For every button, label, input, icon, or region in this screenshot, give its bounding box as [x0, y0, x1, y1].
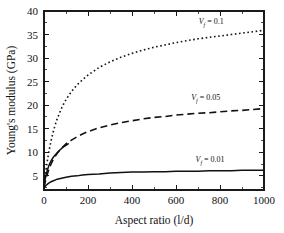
plot-frame [44, 11, 264, 190]
x-tick-label: 200 [80, 194, 97, 206]
x-tick-label: 0 [41, 194, 47, 206]
series-curve [44, 170, 264, 187]
series-label: Vf = 0.05 [191, 93, 220, 104]
x-tick-label: 800 [212, 194, 229, 206]
series-label: Vf = 0.1 [199, 17, 224, 28]
series-label: Vf = 0.01 [196, 155, 225, 166]
chart-canvas: 02004006008001000510152025303540Vf = 0.1… [0, 0, 284, 233]
y-tick-label: 25 [27, 76, 39, 88]
chart-figure: 02004006008001000510152025303540Vf = 0.1… [0, 0, 284, 233]
x-tick-label: 1000 [253, 194, 276, 206]
series-curve [44, 30, 264, 186]
y-tick-label: 5 [33, 170, 39, 182]
x-tick-label: 600 [168, 194, 185, 206]
y-tick-label: 30 [27, 52, 39, 64]
y-tick-label: 35 [27, 29, 39, 41]
x-axis-title: Aspect ratio (l/d) [115, 214, 194, 227]
y-tick-label: 40 [27, 5, 39, 17]
series-curve [44, 144, 68, 187]
y-axis-title: Young's modulus (GPa) [5, 46, 18, 156]
x-tick-label: 400 [124, 194, 141, 206]
y-tick-label: 10 [27, 146, 39, 158]
y-tick-label: 15 [27, 123, 39, 135]
y-tick-label: 20 [27, 99, 39, 111]
